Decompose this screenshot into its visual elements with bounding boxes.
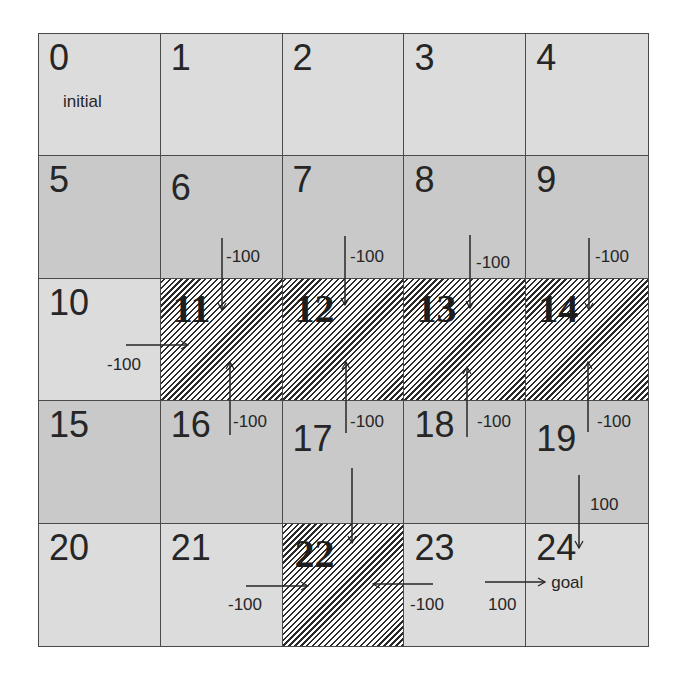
cell-number: 5 xyxy=(49,160,69,200)
cell-17: 17 xyxy=(283,401,405,523)
cell-1: 1 xyxy=(161,34,283,156)
cell-number: 1 xyxy=(171,38,191,78)
cell-number: 2 xyxy=(293,38,313,78)
cell-number: 6 xyxy=(171,168,191,208)
cell-number: 11 xyxy=(173,289,211,329)
cell-number: 12 xyxy=(295,289,335,329)
cell-number: 13 xyxy=(416,289,456,329)
cell-number: 7 xyxy=(293,160,313,200)
cell-24: 24 goal xyxy=(526,524,648,646)
cell-number: 23 xyxy=(414,528,454,568)
cell-3: 3 xyxy=(404,34,526,156)
cell-number: 19 xyxy=(536,419,576,459)
cell-23: 23 xyxy=(404,524,526,646)
cell-number: 18 xyxy=(414,405,454,445)
cell-number: 21 xyxy=(171,528,211,568)
cell-7: 7 xyxy=(283,156,405,278)
cell-number: 8 xyxy=(414,160,434,200)
initial-label: initial xyxy=(63,92,102,112)
cell-4: 4 xyxy=(526,34,648,156)
cell-5: 5 xyxy=(39,156,161,278)
cell-number: 10 xyxy=(49,283,89,323)
cell-number: 3 xyxy=(414,38,434,78)
cell-number: 20 xyxy=(49,528,89,568)
cell-19: 19 xyxy=(526,401,648,523)
cell-number: 24 xyxy=(536,528,576,568)
cell-number: 17 xyxy=(293,419,333,459)
cell-22: 22 xyxy=(283,524,405,646)
cell-13: 13 xyxy=(404,279,526,401)
cell-number: 15 xyxy=(49,405,89,445)
cell-9: 9 xyxy=(526,156,648,278)
cell-15: 15 xyxy=(39,401,161,523)
cell-16: 16 xyxy=(161,401,283,523)
cell-8: 8 xyxy=(404,156,526,278)
goal-label: goal xyxy=(551,573,583,593)
cell-11: 11 xyxy=(161,279,283,401)
cell-0: 0 initial xyxy=(39,34,161,156)
cell-21: 21 xyxy=(161,524,283,646)
gridworld: 0 initial 1 2 3 4 5 6 7 8 9 10 11 12 13 … xyxy=(38,33,649,647)
cell-number: 9 xyxy=(536,160,556,200)
cell-12: 12 xyxy=(283,279,405,401)
cell-10: 10 xyxy=(39,279,161,401)
cell-18: 18 xyxy=(404,401,526,523)
cell-number: 16 xyxy=(171,405,211,445)
cell-6: 6 xyxy=(161,156,283,278)
cell-20: 20 xyxy=(39,524,161,646)
cell-number: 22 xyxy=(295,534,335,574)
cell-number: 4 xyxy=(536,38,556,78)
cell-2: 2 xyxy=(283,34,405,156)
cell-number: 0 xyxy=(49,38,69,78)
cell-14: 14 xyxy=(526,279,648,401)
cell-number: 14 xyxy=(538,289,578,329)
